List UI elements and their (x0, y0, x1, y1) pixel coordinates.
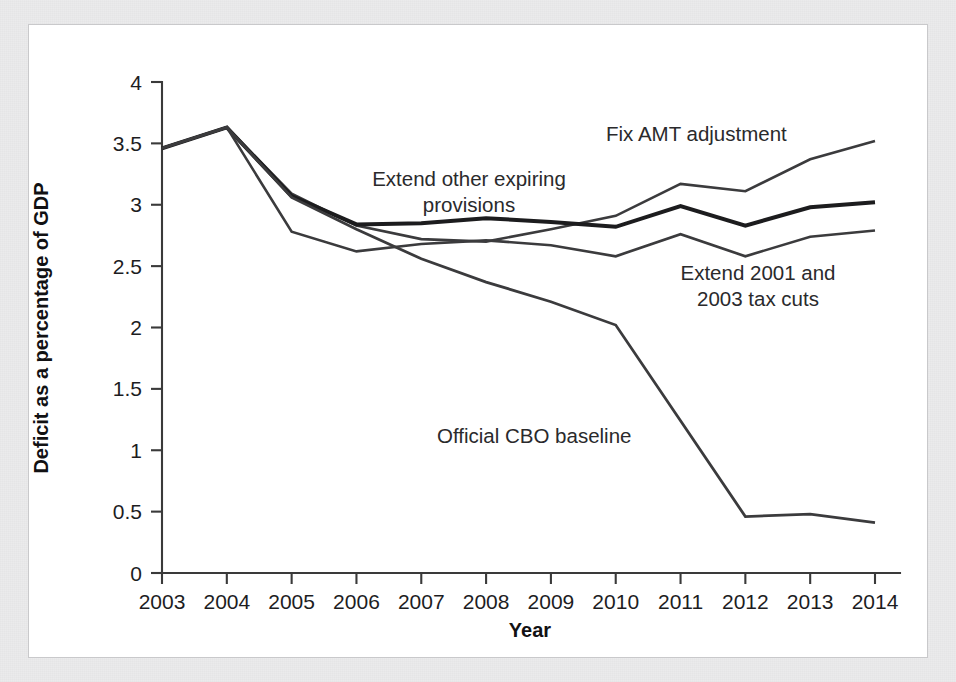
x-tick-label-2014: 2014 (852, 590, 899, 613)
x-tick-label-2004: 2004 (203, 590, 250, 613)
y-tick-label-1: 1 (130, 439, 142, 462)
x-axis-ticks (162, 573, 875, 584)
x-tick-label-2010: 2010 (592, 590, 639, 613)
y-tick-label-2: 2 (130, 316, 142, 339)
chart-area: 00.511.522.533.54 2003200420052006200720… (0, 0, 956, 682)
y-tick-label-1.5: 1.5 (113, 377, 142, 400)
x-tick-label-2003: 2003 (139, 590, 186, 613)
annotation-cbo-baseline-line1: Official CBO baseline (437, 424, 631, 447)
y-tick-label-3.5: 3.5 (113, 132, 142, 155)
y-tick-label-0.5: 0.5 (113, 500, 142, 523)
annotation-extend-tax-cuts: Extend 2001 and 2003 tax cuts (680, 261, 835, 310)
x-tick-label-2013: 2013 (787, 590, 834, 613)
annotation-cbo-baseline: Official CBO baseline (437, 424, 631, 447)
series-line-2 (162, 127, 875, 256)
x-tick-label-2011: 2011 (658, 590, 703, 613)
x-tick-label-2005: 2005 (268, 590, 315, 613)
x-tick-label-2009: 2009 (528, 590, 575, 613)
y-tick-label-4: 4 (130, 71, 142, 94)
axis-group (162, 82, 900, 573)
x-axis-title: Year (509, 619, 551, 641)
annotation-extend-tax-cuts-line1: Extend 2001 and (680, 261, 835, 284)
y-tick-label-3: 3 (130, 193, 142, 216)
y-tick-label-0: 0 (130, 562, 142, 585)
x-tick-label-2007: 2007 (398, 590, 445, 613)
line-chart: 00.511.522.533.54 2003200420052006200720… (0, 0, 956, 682)
x-tick-label-2008: 2008 (463, 590, 510, 613)
y-axis-ticks (151, 82, 162, 573)
figure-root: 00.511.522.533.54 2003200420052006200720… (0, 0, 956, 682)
x-axis-tick-labels: 2003200420052006200720082009201020112012… (139, 590, 899, 613)
annotation-fix-amt-line1: Fix AMT adjustment (606, 122, 787, 145)
annotation-fix-amt: Fix AMT adjustment (606, 122, 787, 145)
annotation-extend-other-line1: Extend other expiring (372, 167, 566, 190)
y-axis-title: Deficit as a percentage of GDP (30, 182, 52, 473)
annotation-extend-tax-cuts-line2: 2003 tax cuts (697, 287, 819, 310)
y-tick-label-2.5: 2.5 (113, 255, 142, 278)
annotation-extend-other-line2: provisions (423, 193, 515, 216)
y-axis-tick-labels: 00.511.522.533.54 (113, 71, 143, 585)
annotation-extend-other-provisions: Extend other expiring provisions (372, 167, 566, 216)
x-tick-label-2012: 2012 (722, 590, 769, 613)
x-tick-label-2006: 2006 (333, 590, 380, 613)
